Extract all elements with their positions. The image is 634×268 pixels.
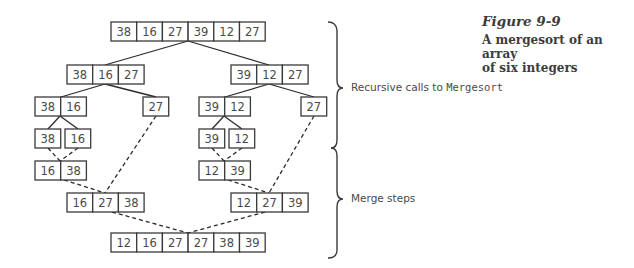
array-node-RL: 3912 [199,97,250,116]
array-cell-value: 12 [237,196,252,210]
array-cell-value: 27 [307,100,322,114]
array-cell-value: 16 [66,100,81,114]
array-cell-value: 39 [237,68,252,82]
recursive-calls-brace-icon [328,22,343,148]
figure-title-line-1: A mergesort of an array [482,33,634,61]
array-cell-value: 27 [168,25,183,39]
array-cell-value: 27 [98,196,113,210]
array-cell-value: 38 [117,25,132,39]
array-cell-value: 12 [117,236,132,250]
split-edge [61,84,105,97]
array-node-LL: 3816 [35,97,86,116]
array-node-mL: 162738 [67,193,144,212]
recursive-calls-label: Recursive calls to Mergesort [351,81,503,93]
split-edge [105,41,188,65]
merge-edge [188,212,265,233]
split-edge [269,84,314,97]
array-nodes: 3816273912273816273912273816273912273816… [35,22,327,252]
array-cell-value: 16 [41,164,56,178]
split-edge [188,41,269,65]
array-node-RR: 27 [301,97,327,116]
merge-edge [112,212,188,233]
array-node-mR: 122739 [231,193,308,212]
mergesort-function-name: Mergesort [446,81,503,93]
array-cell-value: 39 [205,100,220,114]
array-cell-value: 38 [41,100,56,114]
figure-title-line-2: of six integers [482,61,634,75]
array-cell-value: 16 [71,132,86,146]
array-cell-value: 12 [235,132,250,146]
merge-edge [269,116,314,193]
split-edge [224,116,242,129]
array-node-R: 391227 [231,65,308,84]
array-cell-value: 38 [41,132,56,146]
array-node-mLL: 1638 [35,161,86,180]
merge-steps-brace-icon [328,148,343,258]
array-cell-value: 27 [288,68,303,82]
array-cell-value: 27 [194,236,209,250]
array-cell-value: 27 [262,196,277,210]
array-cell-value: 38 [66,164,81,178]
array-node-final: 121627273839 [111,233,265,252]
array-node-L: 381627 [67,65,144,84]
merge-edge [48,148,60,161]
recursive-calls-label-text: Recursive calls to [351,81,446,93]
array-cell-value: 38 [124,196,139,210]
merge-edge [224,148,242,161]
merge-edge [64,180,105,193]
array-cell-value: 39 [194,25,209,39]
array-node-RLL: 39 [199,129,225,148]
array-cell-value: 12 [219,25,234,39]
array-node-LLL: 38 [35,129,61,148]
array-cell-value: 16 [142,25,157,39]
merge-edge [105,116,156,193]
split-edge [225,84,269,97]
split-edge [212,116,224,129]
array-cell-value: 38 [73,68,88,82]
phase-brace-group [328,22,343,258]
array-cell-value: 12 [230,100,245,114]
split-edge [48,116,60,129]
merge-steps-label-text: Merge steps [351,192,415,204]
array-cell-value: 16 [98,68,113,82]
figure-caption: Figure 9-9 A mergesort of an array of si… [482,12,634,75]
array-node-LR: 27 [143,97,169,116]
array-node-root: 381627391227 [111,22,265,41]
array-node-mRL: 1239 [199,161,250,180]
array-cell-value: 27 [168,236,183,250]
figure-number: Figure 9-9 [482,12,634,30]
array-cell-value: 39 [245,236,260,250]
array-cell-value: 27 [124,68,139,82]
array-cell-value: 12 [262,68,277,82]
split-edge [60,116,78,129]
array-cell-value: 16 [73,196,88,210]
array-cell-value: 39 [288,196,303,210]
array-cell-value: 39 [230,164,245,178]
array-cell-value: 27 [149,100,164,114]
array-node-RLR: 12 [229,129,255,148]
array-cell-value: 27 [245,25,260,39]
array-cell-value: 12 [205,164,220,178]
array-cell-value: 38 [219,236,234,250]
merge-edge [60,148,78,161]
merge-edge [228,180,269,193]
array-cell-value: 16 [142,236,157,250]
array-cell-value: 39 [205,132,220,146]
merge-edge [212,148,224,161]
array-node-LLR: 16 [65,129,91,148]
merge-steps-label: Merge steps [351,192,415,204]
split-edge [105,84,156,97]
